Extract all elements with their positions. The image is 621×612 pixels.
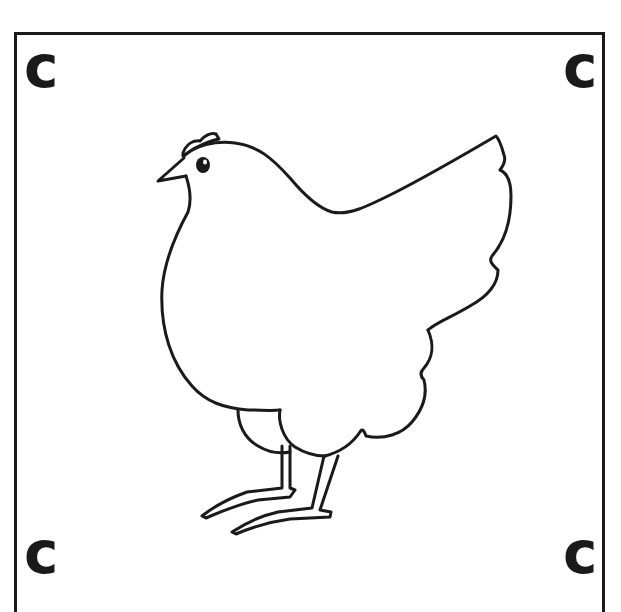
chicken-back — [184, 136, 511, 330]
chicken-eye — [196, 157, 210, 173]
chicken-leg-right — [232, 456, 338, 534]
chicken-rear-feathers — [325, 330, 432, 456]
chicken-leg-left — [202, 446, 295, 518]
chicken-breast — [162, 176, 280, 410]
chicken-beak — [158, 158, 186, 181]
